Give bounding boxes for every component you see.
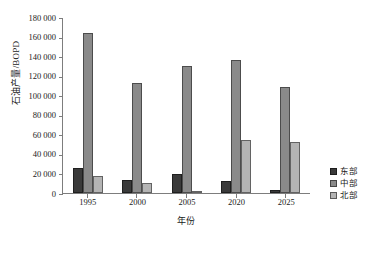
bar xyxy=(290,142,300,193)
y-axis-tick-label: 160 000 xyxy=(8,33,56,42)
bar xyxy=(122,180,132,193)
bar xyxy=(83,33,93,193)
legend-label: 东部 xyxy=(340,167,358,176)
bar-chart: 石油产量/BOPD 180 000160 000140 000120 00010… xyxy=(0,0,375,254)
x-axis-tick-label: 2005 xyxy=(162,197,212,207)
bar xyxy=(142,183,152,193)
x-axis-tick-label: 2000 xyxy=(113,197,163,207)
bar xyxy=(221,181,231,193)
x-axis-tick-label: 1995 xyxy=(63,197,113,207)
y-axis-tick-label: 120 000 xyxy=(8,72,56,81)
x-axis-tick-label: 2020 xyxy=(212,197,262,207)
bar-group xyxy=(112,18,161,193)
legend-label: 北部 xyxy=(340,191,358,200)
bar xyxy=(231,60,241,193)
y-axis-tick-label: 180 000 xyxy=(8,14,56,23)
y-axis-tick-mark xyxy=(59,194,63,195)
legend-swatch-icon xyxy=(330,168,337,175)
plot-area: 180 000160 000140 000120 000100 00080 00… xyxy=(62,18,310,194)
y-axis-tick-label: 20 000 xyxy=(8,170,56,179)
bar xyxy=(270,190,280,193)
legend-item[interactable]: 中部 xyxy=(330,178,358,188)
y-axis-tick-label: 140 000 xyxy=(8,53,56,62)
bar-group xyxy=(261,18,310,193)
bar-group xyxy=(162,18,211,193)
bar xyxy=(172,174,182,193)
bar xyxy=(192,191,202,193)
legend: 东部中部北部 xyxy=(330,166,358,202)
bar xyxy=(241,140,251,193)
bar-group xyxy=(63,18,112,193)
legend-item[interactable]: 东部 xyxy=(330,166,358,176)
legend-label: 中部 xyxy=(340,179,358,188)
y-axis-tick-label: 100 000 xyxy=(8,92,56,101)
bar xyxy=(280,87,290,193)
legend-swatch-icon xyxy=(330,180,337,187)
bar-group xyxy=(211,18,260,193)
x-axis-title: 年份 xyxy=(62,216,310,226)
legend-item[interactable]: 北部 xyxy=(330,190,358,200)
bar xyxy=(182,66,192,193)
bar xyxy=(93,176,103,193)
bars-layer xyxy=(63,18,310,193)
x-axis-labels: 19952000200520202025 xyxy=(63,197,311,207)
bar xyxy=(73,168,83,193)
y-axis-tick-label: 40 000 xyxy=(8,150,56,159)
x-axis-tick-label: 2025 xyxy=(261,197,311,207)
legend-swatch-icon xyxy=(330,192,337,199)
y-axis-tick-label: 80 000 xyxy=(8,111,56,120)
y-axis-tick-label: 0 xyxy=(8,190,56,199)
bar xyxy=(132,83,142,193)
y-axis-tick-label: 60 000 xyxy=(8,131,56,140)
